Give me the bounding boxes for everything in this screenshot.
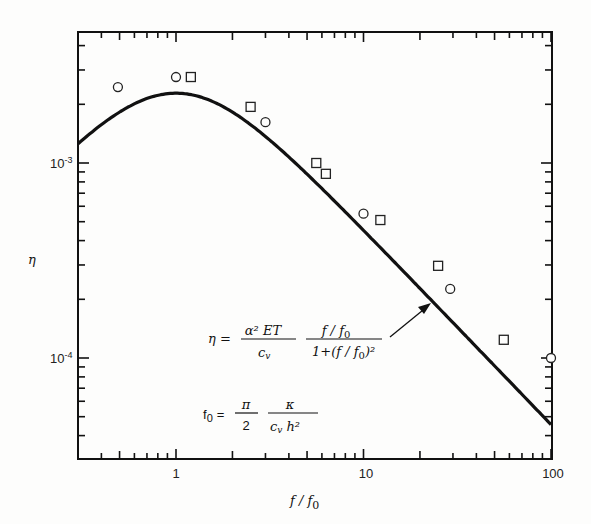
circle-marker bbox=[446, 284, 455, 293]
square-marker bbox=[321, 169, 330, 178]
circle-marker bbox=[547, 354, 556, 363]
svg-text:2: 2 bbox=[242, 418, 249, 433]
svg-text:η =: η = bbox=[208, 331, 231, 346]
svg-text:f0=: f0= bbox=[203, 407, 224, 424]
square-marker bbox=[246, 102, 255, 111]
square-marker bbox=[376, 216, 385, 225]
square-marker bbox=[312, 159, 321, 168]
equation-f0: f0= π 2 κ cvh² bbox=[203, 397, 318, 435]
axis-ticks bbox=[78, 32, 552, 459]
y-tick-1e-3: 10-3 bbox=[50, 155, 72, 171]
y-tick-1e-4: 10-4 bbox=[50, 350, 72, 366]
x-tick-10: 10 bbox=[359, 466, 373, 481]
square-marker bbox=[186, 73, 195, 82]
circle-marker bbox=[113, 83, 122, 92]
theory-curve bbox=[78, 93, 551, 424]
svg-text:α² ET: α² ET bbox=[245, 323, 283, 338]
svg-text:cvh²: cvh² bbox=[270, 419, 300, 435]
svg-text:cv: cv bbox=[258, 345, 270, 361]
svg-text:1+(f / f0)²: 1+(f / f0)² bbox=[312, 344, 375, 361]
y-axis-label: η bbox=[28, 252, 36, 267]
chart: 1 10 100 10-3 10-4 η f / f0 η = α² ET cv… bbox=[0, 0, 591, 524]
x-tick-100: 100 bbox=[542, 466, 564, 481]
svg-text:π: π bbox=[241, 397, 251, 412]
circle-marker bbox=[172, 73, 181, 82]
square-marker bbox=[434, 261, 443, 270]
equation-eta: η = α² ET cv f / f0 1+(f / f0)² bbox=[208, 323, 382, 361]
x-tick-1: 1 bbox=[172, 466, 179, 481]
data-points bbox=[113, 73, 555, 363]
circle-marker bbox=[359, 209, 368, 218]
circle-marker bbox=[261, 118, 270, 127]
svg-text:κ: κ bbox=[285, 397, 295, 412]
annotation-arrow bbox=[390, 303, 431, 337]
square-marker bbox=[499, 335, 508, 344]
svg-text:f / f0: f / f0 bbox=[321, 323, 351, 340]
x-axis-label: f / f0 bbox=[289, 493, 319, 512]
